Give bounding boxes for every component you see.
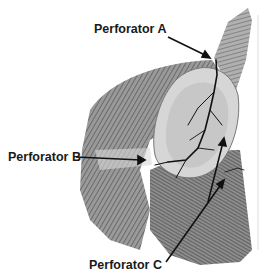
anatomical-illustration (0, 0, 268, 277)
label-perforator-a: Perforator A (94, 22, 166, 36)
label-perforator-c: Perforator C (89, 258, 162, 272)
label-perforator-b: Perforator B (8, 150, 81, 164)
